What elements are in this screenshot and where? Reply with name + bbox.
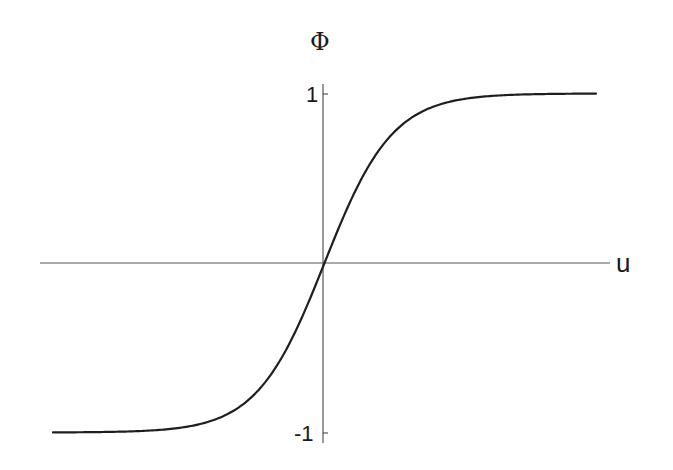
y-axis-label: Φ [310, 30, 330, 54]
y-tick-label-neg1: -1 [294, 423, 314, 445]
x-axis-label: u [616, 250, 630, 276]
y-tick-label-1: 1 [306, 84, 318, 106]
chart-canvas [0, 0, 673, 470]
